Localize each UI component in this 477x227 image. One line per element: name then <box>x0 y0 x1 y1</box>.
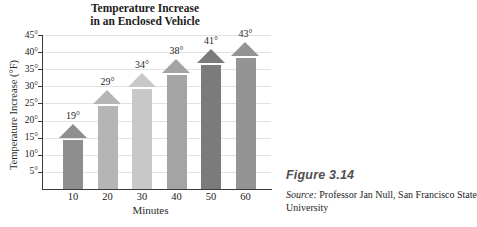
y-tick-label: 25° <box>6 98 38 108</box>
bar-arrow-top <box>231 42 259 56</box>
x-tick-label: 10 <box>58 191 88 202</box>
bar-value-label: 38° <box>159 45 195 56</box>
x-axis-title: Minutes <box>38 204 263 216</box>
bar-value-label: 19° <box>55 110 91 121</box>
bar-arrow-top <box>162 59 190 73</box>
bar <box>236 58 256 189</box>
bar-value-label: 34° <box>124 59 160 70</box>
y-tick-label: 15° <box>6 132 38 142</box>
bar-arrow-top <box>59 124 87 138</box>
y-tick-label: 40° <box>6 47 38 57</box>
bar <box>98 106 118 189</box>
x-axis-line <box>42 189 272 190</box>
y-tick-label: 45° <box>6 30 38 40</box>
y-tick-label: 10° <box>6 149 38 159</box>
bar <box>132 89 152 189</box>
y-tick-label: 35° <box>6 64 38 74</box>
bar-value-label: 29° <box>90 76 126 87</box>
bar-arrow-top <box>93 90 121 104</box>
y-tick-label: 5° <box>6 166 38 176</box>
source-prefix: Source: <box>286 189 317 200</box>
bar-value-label: 41° <box>193 35 229 46</box>
source-rest: Professor Jan Null, San Francisco State <box>317 189 477 200</box>
y-axis-line <box>42 35 43 189</box>
bar <box>167 75 187 189</box>
bar-arrow-top <box>197 49 225 63</box>
bar-value-label: 43° <box>228 28 264 39</box>
source-text-line2: University <box>286 202 328 213</box>
x-tick-label: 50 <box>196 191 226 202</box>
x-tick-label: 20 <box>93 191 123 202</box>
x-tick-label: 30 <box>127 191 157 202</box>
x-tick-label: 40 <box>162 191 192 202</box>
bar <box>63 140 83 189</box>
bar <box>201 65 221 189</box>
figure-number: Figure 3.14 <box>286 168 354 182</box>
x-tick-label: 60 <box>231 191 261 202</box>
source-text-line1: Source: Professor Jan Null, San Francisc… <box>286 189 477 200</box>
y-tick-label: 30° <box>6 81 38 91</box>
bar-arrow-top <box>128 73 156 87</box>
y-tick-label: 20° <box>6 115 38 125</box>
